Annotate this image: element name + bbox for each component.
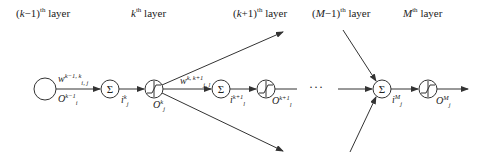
neural-network-diagram: Σ Σ Σ (k−1)th layer kth layer (k+1)th la… (0, 0, 483, 162)
ellipsis: ··· (309, 80, 324, 95)
layer-label-k-plus-1: (k+1)th layer (233, 6, 287, 19)
weight-label-k-minus-1-k: wk−1, ki, j (58, 74, 88, 84)
edge-into-sum-M-upper (343, 30, 376, 81)
weight-label-k-k-plus-1: wk, k+1j, l (180, 76, 210, 86)
output-label-k-plus-1: Ok+1l (272, 96, 292, 106)
input-neuron-circle (34, 78, 56, 100)
output-label-M: OMj (436, 96, 450, 106)
sum-symbol: Σ (218, 83, 224, 95)
sum-symbol: Σ (107, 83, 113, 95)
edge-fanout-down (162, 93, 283, 151)
layer-label-k: kth layer (131, 6, 166, 19)
layer-label-k-minus-1: (k−1)th layer (16, 6, 70, 19)
layer-label-M-minus-1: (M−1)th layer (312, 6, 370, 19)
sum-symbol: Σ (379, 83, 385, 95)
input-label-M: iMj (392, 95, 402, 105)
edge-into-sum-M-lower (350, 97, 376, 152)
output-label-k-minus-1: Ok−1i (58, 94, 78, 104)
input-label-k: ikj (121, 95, 128, 105)
input-label-k-plus-1: ik+1l (230, 95, 245, 105)
output-label-k: Okj (153, 100, 165, 110)
layer-label-M: Mth layer (403, 6, 442, 19)
